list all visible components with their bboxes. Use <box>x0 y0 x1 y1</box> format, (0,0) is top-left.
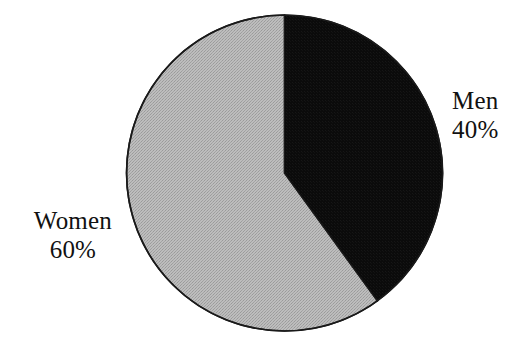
pie-label-men: Men 40% <box>452 86 498 144</box>
pie-label-men-name: Men <box>452 86 498 115</box>
pie-chart-figure: Men 40% Women 60% <box>0 0 530 346</box>
pie-label-men-value: 40% <box>452 115 498 144</box>
pie-chart-graphic <box>0 0 530 346</box>
pie-label-women-value: 60% <box>34 235 112 264</box>
pie-label-women-name: Women <box>34 206 112 235</box>
pie-label-women: Women 60% <box>34 206 112 264</box>
